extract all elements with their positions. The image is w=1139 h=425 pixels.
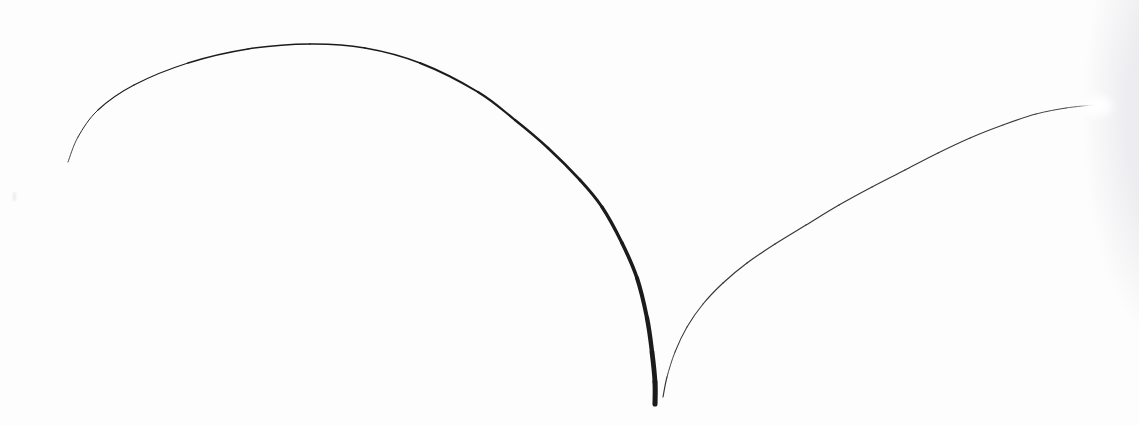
sketch-svg xyxy=(0,0,1139,425)
right-rising-stroke xyxy=(663,105,1093,397)
scanned-page xyxy=(0,0,1139,425)
left-arch-stroke xyxy=(68,44,655,404)
